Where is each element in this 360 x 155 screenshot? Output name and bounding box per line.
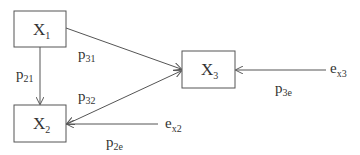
error-ex3-label: ex3 (330, 60, 347, 79)
path-label-p31: p31 (78, 46, 96, 64)
path-label-p32: p32 (78, 88, 96, 106)
path-diagram: X1 X2 X3 ex2 ex3 p31 p21 p32 p2e p3e (0, 0, 360, 155)
error-ex2-label: ex2 (165, 115, 182, 134)
node-x1: X1 (14, 11, 66, 47)
path-label-p3e: p3e (275, 80, 293, 98)
node-x2: X2 (14, 105, 66, 142)
node-x3: X3 (182, 51, 235, 88)
path-label-p2e: p2e (106, 134, 124, 152)
path-label-p21: p21 (16, 66, 34, 84)
